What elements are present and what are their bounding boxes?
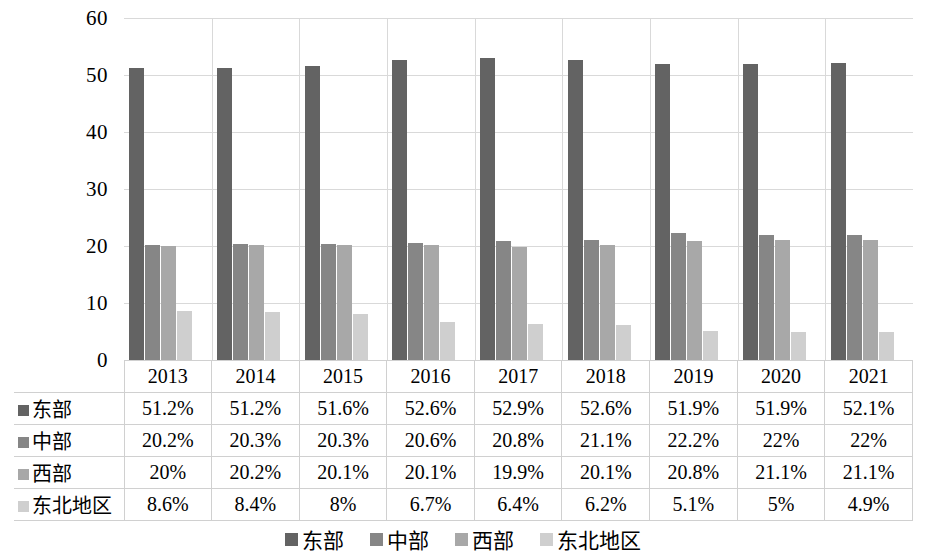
table-row-label: 中部 [32, 431, 72, 453]
bar-东北地区-2015 [353, 314, 368, 360]
y-axis-tick-label: 20 [86, 236, 108, 257]
table-cell-中部-2018: 21.1% [562, 425, 650, 457]
bar-东北地区-2013 [177, 311, 192, 360]
legend-label: 西部 [472, 524, 514, 554]
series-swatch-icon [18, 405, 29, 416]
table-column-header-2013: 2013 [124, 361, 212, 393]
bar-group-2019 [650, 18, 738, 360]
table-cell-东部-2013: 51.2% [124, 393, 212, 425]
legend-swatch-icon [455, 533, 468, 546]
table-column-header-2016: 2016 [387, 361, 475, 393]
bar-中部-2020 [759, 235, 774, 360]
table-cell-中部-2021: 22% [825, 425, 913, 457]
bar-西部-2019 [687, 241, 702, 360]
bar-group-2014 [212, 18, 300, 360]
table-cell-东北地区-2017: 6.4% [474, 489, 562, 521]
table-cell-中部-2019: 22.2% [650, 425, 738, 457]
table-row-label: 东部 [32, 399, 72, 421]
bar-group-2020 [738, 18, 826, 360]
bar-中部-2018 [584, 240, 599, 360]
y-axis-tick-label: 40 [86, 122, 108, 143]
bar-中部-2021 [847, 235, 862, 360]
legend-item-中部[interactable]: 中部 [370, 524, 429, 554]
table-row-header-东部: 东部 [14, 393, 124, 425]
table-cell-东部-2018: 52.6% [562, 393, 650, 425]
y-axis-tick-label: 50 [86, 65, 108, 86]
bar-东部-2014 [217, 68, 232, 360]
y-axis-tick-label: 30 [86, 179, 108, 200]
table-cell-东部-2020: 51.9% [737, 393, 825, 425]
bar-东部-2017 [480, 58, 495, 360]
bar-group-2017 [475, 18, 563, 360]
legend-item-东北地区[interactable]: 东北地区 [540, 524, 641, 554]
table-cell-中部-2017: 20.8% [474, 425, 562, 457]
bar-东北地区-2017 [528, 324, 543, 360]
bar-西部-2017 [512, 247, 527, 360]
bar-西部-2018 [600, 245, 615, 360]
legend-swatch-icon [370, 533, 383, 546]
table-row-header-中部: 中部 [14, 425, 124, 457]
bar-东部-2021 [831, 63, 846, 360]
legend-label: 中部 [387, 524, 429, 554]
table-cell-西部-2020: 21.1% [737, 457, 825, 489]
y-axis-tick-label: 10 [86, 293, 108, 314]
table-cell-西部-2015: 20.1% [299, 457, 387, 489]
table-row: 东北地区8.6%8.4%8%6.7%6.4%6.2%5.1%5%4.9% [14, 489, 913, 521]
bar-东部-2013 [129, 68, 144, 360]
table-corner-cell [14, 361, 124, 393]
bar-中部-2017 [496, 241, 511, 360]
legend-item-西部[interactable]: 西部 [455, 524, 514, 554]
table-column-header-2020: 2020 [737, 361, 825, 393]
bar-东部-2015 [305, 66, 320, 360]
table-row-header-西部: 西部 [14, 457, 124, 489]
table-cell-东北地区-2016: 6.7% [387, 489, 475, 521]
bar-东北地区-2018 [616, 325, 631, 360]
table-cell-东北地区-2013: 8.6% [124, 489, 212, 521]
table-cell-东北地区-2021: 4.9% [825, 489, 913, 521]
bar-西部-2013 [161, 246, 176, 360]
bar-西部-2014 [249, 245, 264, 360]
legend-label: 东部 [302, 524, 344, 554]
table-cell-东部-2017: 52.9% [474, 393, 562, 425]
y-axis: 6050403020100 [0, 0, 124, 378]
table-column-header-2018: 2018 [562, 361, 650, 393]
bar-西部-2016 [424, 245, 439, 360]
bar-东北地区-2019 [703, 331, 718, 360]
bar-东部-2020 [743, 64, 758, 360]
bar-中部-2019 [671, 233, 686, 360]
legend-item-东部[interactable]: 东部 [285, 524, 344, 554]
legend-swatch-icon [540, 533, 553, 546]
bar-group-2015 [299, 18, 387, 360]
bar-西部-2015 [337, 245, 352, 360]
bar-东北地区-2021 [879, 332, 894, 360]
bar-group-2016 [387, 18, 475, 360]
bar-group-2018 [562, 18, 650, 360]
table-cell-西部-2021: 21.1% [825, 457, 913, 489]
bar-西部-2021 [863, 240, 878, 360]
data-table: 201320142015201620172018201920202021东部51… [14, 360, 913, 521]
table-row: 东部51.2%51.2%51.6%52.6%52.9%52.6%51.9%51.… [14, 393, 913, 425]
table-cell-西部-2017: 19.9% [474, 457, 562, 489]
table-cell-中部-2020: 22% [737, 425, 825, 457]
table-cell-西部-2014: 20.2% [212, 457, 300, 489]
bar-西部-2020 [775, 240, 790, 360]
bar-group-2021 [825, 18, 913, 360]
table-row-label: 东北地区 [32, 495, 112, 517]
table-row-header-东北地区: 东北地区 [14, 489, 124, 521]
table-cell-西部-2019: 20.8% [650, 457, 738, 489]
bar-中部-2015 [321, 244, 336, 360]
table-cell-东北地区-2019: 5.1% [650, 489, 738, 521]
legend-label: 东北地区 [557, 524, 641, 554]
bar-东北地区-2020 [791, 332, 806, 361]
table-cell-东北地区-2020: 5% [737, 489, 825, 521]
table-cell-西部-2018: 20.1% [562, 457, 650, 489]
bar-东北地区-2014 [265, 312, 280, 360]
table-cell-中部-2016: 20.6% [387, 425, 475, 457]
bar-group-2013 [124, 18, 212, 360]
table-cell-中部-2015: 20.3% [299, 425, 387, 457]
table-cell-中部-2014: 20.3% [212, 425, 300, 457]
table-column-header-2015: 2015 [299, 361, 387, 393]
bar-东部-2018 [568, 60, 583, 360]
table-cell-西部-2016: 20.1% [387, 457, 475, 489]
table-cell-东部-2015: 51.6% [299, 393, 387, 425]
